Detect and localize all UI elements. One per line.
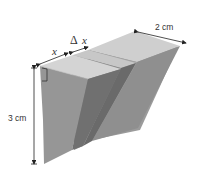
- delta-symbol: Δ: [70, 33, 78, 47]
- wedge-slice-diagram: 3 cm x Δ x 2 cm: [0, 0, 203, 177]
- depth-label: 2 cm: [155, 22, 173, 32]
- delta-x-variable: x: [81, 34, 87, 46]
- height-label: 3 cm: [8, 113, 26, 123]
- x-label: x: [51, 45, 57, 57]
